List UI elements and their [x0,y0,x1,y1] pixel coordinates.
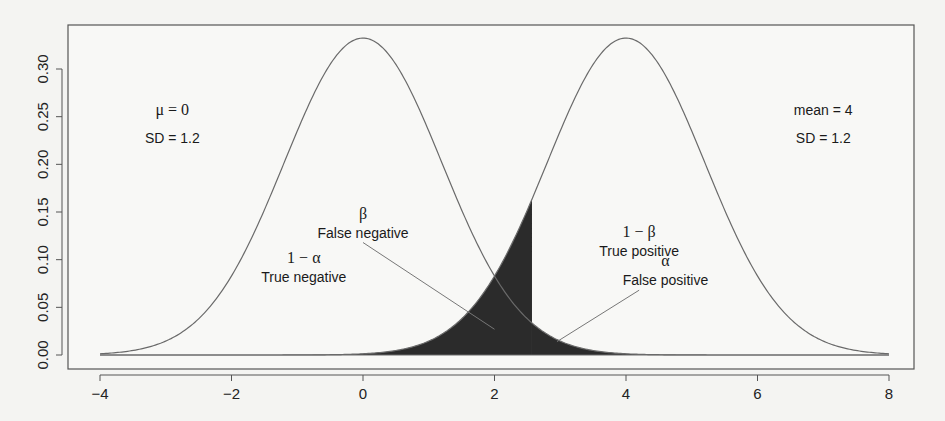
x-tick-label: −2 [223,385,240,402]
x-tick-label: 0 [359,385,367,402]
y-tick-label: 0.15 [34,197,51,226]
y-tick-label: 0.25 [34,102,51,131]
x-axis: −4−202468 [91,375,893,402]
null-sd-label: SD = 1.2 [145,130,200,146]
y-axis: 0.000.050.100.150.200.250.30 [34,54,62,369]
x-tick-label: 4 [622,385,630,402]
beta-symbol: β [359,205,367,223]
false-positive-label: False positive [623,272,709,288]
y-tick-label: 0.00 [34,340,51,369]
y-tick-label: 0.30 [34,54,51,83]
x-tick-label: 6 [753,385,761,402]
x-tick-label: 2 [490,385,498,402]
null-mean-label: μ = 0 [156,101,190,119]
true-negative-label: True negative [261,269,346,285]
one-minus-alpha-symbol: 1 − α [287,249,321,266]
alt-mean-label: mean = 4 [794,102,853,118]
alpha-symbol: α [661,252,670,269]
y-tick-label: 0.05 [34,293,51,322]
alt-sd-label: SD = 1.2 [796,130,851,146]
x-tick-label: −4 [91,385,108,402]
one-minus-beta-symbol: 1 − β [623,223,656,241]
y-tick-label: 0.20 [34,150,51,179]
x-tick-label: 8 [885,385,893,402]
y-tick-label: 0.10 [34,245,51,274]
false-negative-label: False negative [317,225,408,241]
power-analysis-chart: 0.000.050.100.150.200.250.30 −4−202468 μ… [0,0,945,421]
